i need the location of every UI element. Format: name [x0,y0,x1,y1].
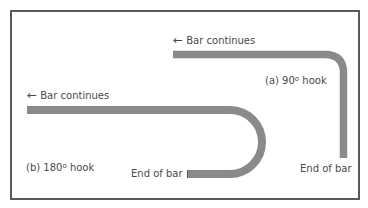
hook-b-caption-text: (b) 180 [26,162,62,173]
hook-a-end-label: End of bar [300,163,352,175]
hook-b-continues-label: Bar continues [40,90,109,101]
hook-b-end-label: End of bar [131,168,183,180]
hook-a-continues: ← Bar continues [173,34,255,47]
hook-a-continues-label: Bar continues [186,35,255,46]
hook-b-caption: (b) 180o hook [26,162,94,174]
left-arrow-icon: ← [173,33,183,47]
hook-diagram [0,0,368,208]
hook-b-continues: ← Bar continues [27,89,109,102]
hook-a-caption-text: (a) 90 [265,75,295,86]
left-arrow-icon: ← [27,88,37,102]
hook-a-caption: (a) 90o hook [265,75,327,87]
hook-a-caption-suffix: hook [299,75,327,86]
degree-symbol: o [62,162,66,170]
degree-symbol: o [295,75,299,83]
hook-b-caption-suffix: hook [67,162,95,173]
